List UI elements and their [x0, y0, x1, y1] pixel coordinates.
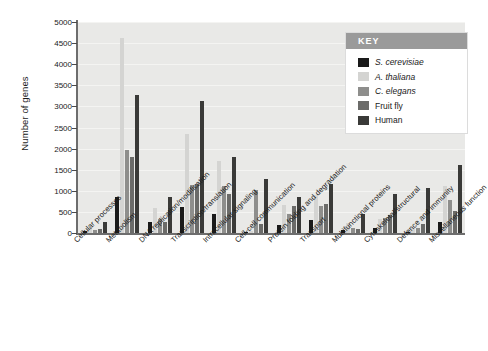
legend-label: S. cerevisiae: [375, 57, 424, 67]
y-axis-tick-label: 1000: [30, 186, 72, 195]
y-axis-tick-mark: [72, 43, 77, 44]
y-axis-tick-mark: [72, 128, 77, 129]
y-axis-tick-label: 2500: [30, 123, 72, 132]
y-axis-tick-label: 2000: [30, 144, 72, 153]
y-axis-tick-mark: [72, 85, 77, 86]
legend: KEY S. cerevisiaeA. thalianaC. elegansFr…: [345, 32, 468, 134]
legend-entries: S. cerevisiaeA. thalianaC. elegansFruit …: [346, 49, 467, 133]
legend-label: A. thaliana: [375, 72, 415, 82]
legend-entry: S. cerevisiae: [358, 57, 467, 67]
bar: [103, 222, 107, 233]
y-axis-tick-label: 500: [30, 207, 72, 216]
bar: [98, 229, 102, 233]
y-axis-title: Number of genes: [19, 44, 30, 184]
legend-label: Fruit fly: [375, 101, 403, 111]
legend-entry: A. thaliana: [358, 72, 467, 82]
legend-swatch: [358, 87, 369, 96]
legend-swatch: [358, 101, 369, 110]
y-axis-tick-mark: [72, 22, 77, 23]
y-axis-tick-label: 4500: [30, 39, 72, 48]
bar: [458, 165, 462, 233]
y-axis-tick-label: 3000: [30, 102, 72, 111]
legend-swatch: [358, 116, 369, 125]
y-axis-tick-label: 0: [30, 229, 72, 238]
legend-label: C. elegans: [375, 86, 416, 96]
y-axis-tick-mark: [72, 106, 77, 107]
bar: [232, 157, 236, 233]
y-axis-tick-label: 5000: [30, 18, 72, 27]
bar: [259, 224, 263, 233]
bar: [356, 229, 360, 233]
y-axis-tick-mark: [72, 149, 77, 150]
y-axis-tick-mark: [72, 64, 77, 65]
bar: [120, 38, 124, 233]
y-axis-tick-label: 1500: [30, 165, 72, 174]
y-axis-tick-mark: [72, 170, 77, 171]
legend-swatch: [358, 58, 369, 67]
y-axis-tick-label: 4000: [30, 60, 72, 69]
bar: [421, 224, 425, 233]
bar: [93, 230, 97, 233]
bar: [329, 184, 333, 233]
bar-group: [83, 22, 108, 233]
legend-label: Human: [375, 115, 402, 125]
bar: [135, 95, 139, 233]
bar-group: [148, 22, 173, 233]
legend-swatch: [358, 72, 369, 81]
y-axis-tick-mark: [72, 191, 77, 192]
legend-title: KEY: [346, 33, 467, 49]
y-axis-tick-label: 3500: [30, 81, 72, 90]
legend-entry: C. elegans: [358, 86, 467, 96]
legend-entry: Fruit fly: [358, 101, 467, 111]
legend-entry: Human: [358, 115, 467, 125]
y-axis-tick-mark: [72, 212, 77, 213]
